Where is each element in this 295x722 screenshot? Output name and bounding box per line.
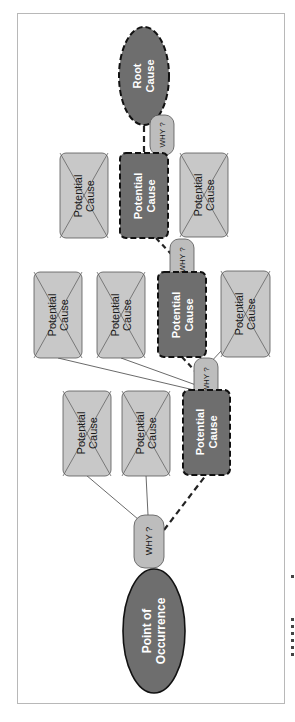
cause-label: Potential	[109, 294, 121, 337]
connector-line	[121, 358, 196, 385]
root-cause-label-1: Root	[131, 63, 143, 88]
selected-cause-node[interactable]: Potential Cause	[183, 390, 230, 475]
cause-label: Cause	[183, 298, 195, 331]
five-whys-diagram: .lt { font-size: 11px; fill: #1a1a1a; fo…	[0, 0, 295, 722]
cause-label: Potential	[132, 173, 144, 219]
cause-label: Potential	[134, 412, 146, 455]
connector-line	[146, 475, 148, 515]
level-3-causes: Potential Cause Potential Cause Potentia…	[63, 390, 230, 476]
rejected-cause-node[interactable]: Potential Cause	[97, 272, 145, 358]
point-of-occurrence-node[interactable]: Point of Occurrence	[123, 569, 185, 693]
level-1-causes: Potential Cause Potential Cause Potentia…	[60, 153, 228, 238]
why-node-1[interactable]: WHY ?	[150, 115, 174, 155]
cause-label: Cause	[121, 299, 133, 331]
cause-label: Cause	[204, 179, 216, 211]
cause-label: Cause	[84, 180, 96, 212]
why-node-4[interactable]: WHY ?	[134, 515, 164, 568]
cause-label: Cause	[145, 179, 157, 212]
cause-label: Cause	[87, 417, 99, 449]
level-2-causes: Potential Cause Potential Cause Potentia…	[34, 271, 270, 358]
rejected-cause-node[interactable]: Potential Cause	[221, 271, 270, 357]
diagram-canvas: .lt { font-size: 11px; fill: #1a1a1a; fo…	[0, 0, 295, 722]
cause-label: Potential	[170, 292, 182, 338]
why-label: WHY ?	[178, 247, 187, 273]
rejected-cause-node[interactable]: Potential Cause	[34, 272, 82, 358]
rejected-cause-node[interactable]: Potential Cause	[60, 153, 108, 238]
cropped-caption-text	[291, 575, 295, 695]
point-of-occurrence-label-2: Occurrence	[154, 597, 168, 664]
cause-label: Potential	[72, 175, 84, 218]
connector-line	[58, 358, 194, 390]
root-cause-node[interactable]: Root Cause	[119, 27, 169, 125]
point-of-occurrence-label-1: Point of	[140, 608, 154, 654]
cause-label: Potential	[46, 294, 58, 337]
rejected-cause-node[interactable]: Potential Cause	[122, 391, 170, 476]
cause-label: Cause	[58, 299, 70, 331]
selected-cause-node[interactable]: Potential Cause	[120, 153, 168, 238]
cause-label: Cause	[146, 417, 158, 449]
root-cause-label-2: Cause	[144, 59, 156, 92]
cause-label: Potential	[192, 174, 204, 217]
connector-line	[86, 475, 145, 525]
why-label: WHY ?	[144, 527, 154, 555]
rejected-cause-node[interactable]: Potential Cause	[63, 391, 111, 476]
why-label: WHY ?	[202, 367, 211, 393]
cause-label: Potential	[233, 293, 245, 336]
cause-label: Potential	[194, 409, 206, 455]
cause-label: Cause	[207, 415, 219, 448]
cause-label: Potential	[75, 412, 87, 455]
selected-cause-node[interactable]: Potential Cause	[158, 272, 206, 357]
cause-label: Cause	[245, 298, 257, 330]
selected-path-connector	[164, 475, 206, 530]
rejected-cause-node[interactable]: Potential Cause	[180, 153, 228, 237]
why-label: WHY ?	[158, 122, 167, 148]
